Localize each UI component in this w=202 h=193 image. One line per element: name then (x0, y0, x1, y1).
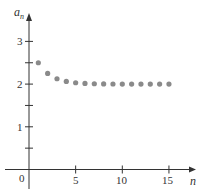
data-point (45, 71, 50, 76)
y-tick-label-3: 3 (17, 36, 23, 47)
data-point (82, 81, 87, 86)
y-axis-label-subscript: n (20, 12, 24, 21)
x-axis-arrow-icon (189, 167, 196, 173)
x-tick-label-5: 5 (73, 175, 79, 186)
data-point (36, 60, 41, 65)
data-point (54, 76, 59, 81)
y-axis-arrow-icon (26, 13, 32, 21)
y-axis-label: an (14, 6, 24, 21)
data-point (101, 81, 106, 86)
data-point (120, 81, 125, 86)
data-point (64, 79, 69, 84)
sequence-chart (0, 0, 202, 193)
data-point (138, 81, 143, 86)
x-tick-label-10: 10 (116, 175, 127, 186)
data-point (148, 81, 153, 86)
data-point (129, 81, 134, 86)
data-points (36, 60, 172, 87)
y-tick-label-1: 1 (17, 122, 23, 133)
origin-label: 0 (19, 173, 25, 184)
data-point (110, 81, 115, 86)
x-tick-label-15: 15 (162, 175, 173, 186)
data-point (166, 82, 171, 87)
y-tick-label-2: 2 (17, 79, 23, 90)
data-point (157, 81, 162, 86)
axes (5, 13, 196, 189)
data-point (73, 80, 78, 85)
data-point (92, 81, 97, 86)
x-axis-label: n (190, 175, 196, 187)
